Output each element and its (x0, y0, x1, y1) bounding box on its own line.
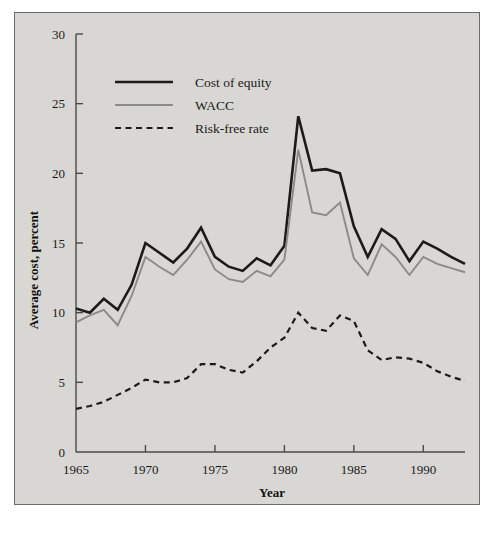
data-series-group (76, 116, 465, 409)
x-axis-title: Year (259, 485, 285, 500)
series-wacc (76, 150, 465, 326)
series-risk-free-rate (76, 313, 465, 409)
figure-container: 051015202530 196519701975198019851990 Co… (0, 0, 493, 536)
y-axis-title: Average cost, percent (26, 210, 41, 329)
x-tick-label: 1980 (271, 462, 297, 477)
y-tick-label: 25 (52, 96, 65, 111)
x-tick-label: 1985 (341, 462, 367, 477)
legend-label-1: Cost of equity (195, 75, 272, 90)
series-cost-of-equity (76, 116, 465, 312)
y-tick-label: 0 (59, 445, 66, 460)
y-tick-label: 30 (52, 27, 65, 42)
legend-label-2: WACC (195, 98, 234, 113)
x-tick-label: 1970 (132, 462, 158, 477)
y-tick-label: 20 (52, 166, 65, 181)
x-axis: 196519701975198019851990 (63, 445, 465, 477)
legend-label-3: Risk-free rate (195, 121, 269, 136)
x-tick-label: 1975 (202, 462, 228, 477)
chart-plot: 051015202530 196519701975198019851990 Co… (0, 0, 493, 536)
x-tick-label: 1990 (410, 462, 436, 477)
y-tick-label: 5 (59, 375, 66, 390)
x-tick-label: 1965 (63, 462, 89, 477)
y-tick-label: 10 (52, 305, 65, 320)
chart-legend: Cost of equityWACCRisk-free rate (115, 75, 272, 136)
y-axis: 051015202530 (52, 27, 83, 460)
y-tick-label: 15 (52, 236, 65, 251)
